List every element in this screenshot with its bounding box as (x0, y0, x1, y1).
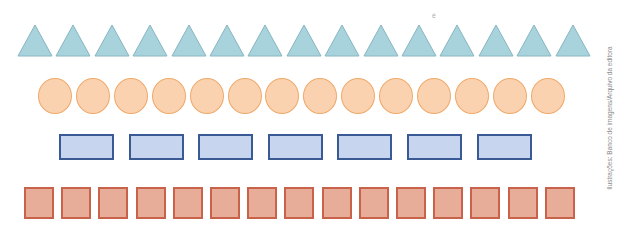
triangle-shape (363, 24, 399, 57)
circle-shape (152, 78, 186, 114)
stray-mark: é (432, 12, 436, 19)
square-shape (61, 187, 91, 219)
triangle-shape (17, 24, 53, 57)
circle-shape (341, 78, 375, 114)
rectangle-shape (477, 134, 532, 160)
triangle-shape (132, 24, 168, 57)
square-shape (210, 187, 240, 219)
circle-shape (417, 78, 451, 114)
triangle-shape (94, 24, 130, 57)
square-shape (136, 187, 166, 219)
square-shape (359, 187, 389, 219)
square-shape (396, 187, 426, 219)
rectangle-shape (198, 134, 253, 160)
circle-shape (455, 78, 489, 114)
circle-shape (38, 78, 72, 114)
circle-shape (190, 78, 224, 114)
triangle-shape (324, 24, 360, 57)
square-shape (98, 187, 128, 219)
circle-shape (531, 78, 565, 114)
circle-shape (379, 78, 413, 114)
image-credit: Ilustrações: Banco de imagens/Arquivo da… (606, 46, 613, 189)
circle-shape (76, 78, 110, 114)
triangle-shape (555, 24, 591, 57)
square-shape (247, 187, 277, 219)
circle-shape (303, 78, 337, 114)
rectangle-shape (337, 134, 392, 160)
square-shape (24, 187, 54, 219)
triangle-shape (55, 24, 91, 57)
rectangle-shape (59, 134, 114, 160)
square-shape (433, 187, 463, 219)
triangle-shape (439, 24, 475, 57)
square-shape (470, 187, 500, 219)
triangle-shape (209, 24, 245, 57)
square-shape (508, 187, 538, 219)
triangle-shape (478, 24, 514, 57)
circle-shape (265, 78, 299, 114)
triangle-shape (516, 24, 552, 57)
circle-shape (493, 78, 527, 114)
square-shape (284, 187, 314, 219)
triangle-shape (247, 24, 283, 57)
circle-shape (228, 78, 262, 114)
rectangle-shape (407, 134, 462, 160)
triangle-shape (401, 24, 437, 57)
circle-shape (114, 78, 148, 114)
rectangle-shape (129, 134, 184, 160)
square-shape (173, 187, 203, 219)
square-shape (545, 187, 575, 219)
rectangle-shape (268, 134, 323, 160)
triangle-shape (286, 24, 322, 57)
triangle-shape (171, 24, 207, 57)
square-shape (322, 187, 352, 219)
